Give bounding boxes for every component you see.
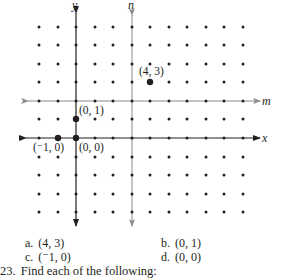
lattice-dot — [112, 211, 115, 214]
lattice-dot — [242, 156, 245, 159]
lattice-dot — [186, 26, 189, 29]
lattice-dot — [131, 156, 134, 159]
lattice-dot — [223, 81, 226, 84]
lattice-dot — [94, 44, 97, 47]
lattice-dot — [94, 100, 97, 103]
lattice-dot — [186, 63, 189, 66]
lattice-dot — [112, 26, 115, 29]
lattice-dot — [168, 156, 171, 159]
lattice-dot — [75, 174, 78, 177]
lattice-dot — [38, 156, 41, 159]
lattice-dot — [57, 193, 60, 196]
lattice-dot — [75, 26, 78, 29]
lattice-dot — [57, 156, 60, 159]
lattice-dot — [131, 174, 134, 177]
choice-c-value: (⁻1, 0) — [38, 250, 70, 264]
lattice-dot — [94, 118, 97, 121]
point-label-0-1: (0, 1) — [79, 104, 104, 117]
lattice-dot — [94, 26, 97, 29]
lattice-dot — [242, 174, 245, 177]
lattice-dot — [205, 156, 208, 159]
lattice-dot — [94, 63, 97, 66]
lattice-dot — [75, 211, 78, 214]
coordinate-grid-figure — [0, 0, 284, 230]
lattice-dots — [38, 26, 245, 214]
lattice-dot — [242, 44, 245, 47]
lattice-dot — [168, 100, 171, 103]
lattice-dot — [149, 44, 152, 47]
lattice-dot — [131, 44, 134, 47]
point-label-neg1-0: (⁻1, 0) — [33, 141, 64, 154]
lattice-dot — [186, 44, 189, 47]
lattice-dot — [168, 81, 171, 84]
choice-b-letter: b. — [161, 236, 170, 250]
lattice-dot — [131, 118, 134, 121]
lattice-dot — [168, 118, 171, 121]
lattice-dot — [149, 118, 152, 121]
lattice-dot — [112, 156, 115, 159]
lattice-dot — [223, 211, 226, 214]
lattice-dot — [205, 44, 208, 47]
lattice-dot — [186, 156, 189, 159]
lattice-dot — [242, 81, 245, 84]
lattice-dot — [38, 193, 41, 196]
lattice-dot — [186, 118, 189, 121]
lattice-dot — [168, 63, 171, 66]
lattice-dot — [38, 81, 41, 84]
lattice-dot — [168, 26, 171, 29]
choice-a: a. (4, 3) — [25, 237, 64, 250]
lattice-dot — [94, 174, 97, 177]
lattice-dot — [205, 118, 208, 121]
lattice-dot — [168, 44, 171, 47]
lattice-dot — [205, 211, 208, 214]
lattice-dot — [168, 211, 171, 214]
lattice-dot — [242, 137, 245, 140]
lattice-dot — [38, 44, 41, 47]
lattice-dot — [149, 193, 152, 196]
lattice-dot — [57, 174, 60, 177]
lattice-dot — [149, 174, 152, 177]
lattice-dot — [38, 100, 41, 103]
choice-a-letter: a. — [25, 236, 33, 250]
lattice-dot — [223, 44, 226, 47]
choice-d-letter: d. — [161, 250, 170, 264]
lattice-dot — [75, 44, 78, 47]
lattice-dot — [94, 81, 97, 84]
lattice-dot — [57, 118, 60, 121]
lattice-dot — [186, 193, 189, 196]
lattice-dot — [205, 63, 208, 66]
lattice-dot — [112, 63, 115, 66]
lattice-dot — [205, 100, 208, 103]
question-23: 23. Find each of the following: — [0, 265, 157, 278]
lattice-dot — [223, 63, 226, 66]
lattice-dot — [131, 193, 134, 196]
lattice-dot — [242, 26, 245, 29]
lattice-dot — [168, 137, 171, 140]
lattice-dot — [205, 81, 208, 84]
choice-d: d. (0, 0) — [161, 251, 201, 264]
lattice-dot — [205, 26, 208, 29]
highlighted-point — [147, 79, 153, 85]
lattice-dot — [38, 63, 41, 66]
lattice-dot — [242, 100, 245, 103]
lattice-dot — [112, 193, 115, 196]
choice-b: b. (0, 1) — [161, 237, 201, 250]
lattice-dot — [149, 137, 152, 140]
lattice-dot — [186, 137, 189, 140]
lattice-dot — [57, 44, 60, 47]
lattice-dot — [112, 137, 115, 140]
lattice-dot — [149, 156, 152, 159]
lattice-dot — [168, 193, 171, 196]
question-number: 23. — [0, 264, 16, 278]
lattice-dot — [149, 100, 152, 103]
lattice-dot — [75, 193, 78, 196]
choice-b-value: (0, 1) — [175, 236, 201, 250]
lattice-dot — [223, 100, 226, 103]
n-axis-label: n — [128, 0, 134, 12]
lattice-dot — [131, 63, 134, 66]
lattice-dot — [223, 137, 226, 140]
lattice-dot — [38, 118, 41, 121]
choice-c-letter: c. — [25, 250, 33, 264]
choice-d-value: (0, 0) — [175, 250, 201, 264]
x-axis-label: x — [262, 132, 267, 145]
